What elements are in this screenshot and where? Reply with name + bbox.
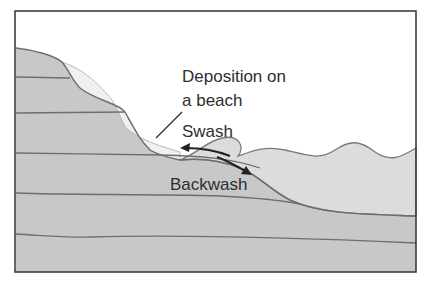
backwash-label: Backwash: [170, 175, 247, 194]
swash-label: Swash: [182, 122, 233, 141]
deposition-pointer: [156, 112, 182, 138]
beach-deposition-diagram: Deposition on a beach Swash Backwash: [0, 0, 422, 288]
deposition-label-line1: Deposition on: [182, 67, 286, 86]
deposition-label-line2: a beach: [182, 91, 243, 110]
